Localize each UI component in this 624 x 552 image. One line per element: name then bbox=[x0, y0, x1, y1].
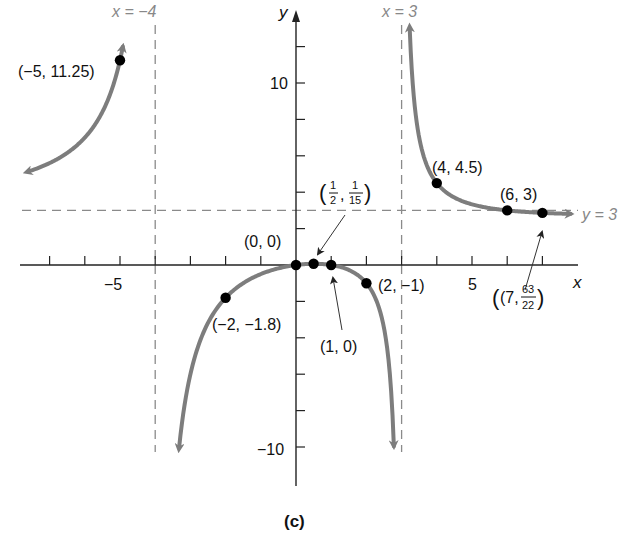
point-label-two: (2, −1) bbox=[378, 277, 425, 294]
curves bbox=[28, 29, 570, 448]
point-label-half: ( 1 2 , 1 15 ) bbox=[319, 179, 371, 206]
svg-text:,: , bbox=[340, 186, 344, 203]
data-point bbox=[432, 178, 442, 188]
point-label-four: (4, 4.5) bbox=[432, 159, 483, 176]
point-label-seven: ( (7, (7, 63 22 ) bbox=[492, 283, 544, 311]
leader-one bbox=[333, 278, 342, 330]
x-tick-label-neg5: −5 bbox=[104, 276, 122, 293]
point-label-neg2: (−2, −1.8) bbox=[212, 316, 281, 333]
point-label-origin: (0, 0) bbox=[244, 233, 281, 250]
svg-text:(: ( bbox=[319, 180, 327, 205]
asymptote-label-x3: x = 3 bbox=[381, 3, 417, 20]
data-point bbox=[220, 293, 230, 303]
data-point bbox=[115, 55, 125, 65]
svg-text:(7,: (7, bbox=[500, 289, 519, 306]
data-point bbox=[308, 259, 318, 269]
svg-text:): ) bbox=[364, 180, 371, 205]
svg-text:1: 1 bbox=[330, 179, 336, 191]
y-tick-label-neg10: −10 bbox=[257, 441, 284, 458]
point-label-one: (1, 0) bbox=[320, 338, 357, 355]
data-point bbox=[326, 260, 336, 270]
figure-caption: (c) bbox=[284, 512, 305, 531]
svg-text:): ) bbox=[537, 285, 544, 310]
asymptote-label-x-neg4: x = −4 bbox=[111, 3, 157, 20]
point-label-neg5: (−5, 11.25) bbox=[18, 63, 95, 80]
data-point bbox=[502, 205, 512, 215]
svg-text:2: 2 bbox=[330, 194, 336, 206]
data-point bbox=[537, 208, 547, 218]
y-axis-arrow-icon bbox=[292, 10, 300, 22]
rational-function-graph: x = −4 x = 3 y = 3 y x −5 5 10 −10 (−5, … bbox=[0, 0, 624, 552]
svg-text:1: 1 bbox=[352, 179, 358, 191]
y-axis-label: y bbox=[278, 3, 289, 22]
axes bbox=[20, 10, 578, 486]
svg-text:22: 22 bbox=[522, 299, 534, 311]
svg-text:63: 63 bbox=[522, 283, 534, 295]
svg-text:15: 15 bbox=[349, 194, 361, 206]
y-tick-label-10: 10 bbox=[270, 75, 288, 92]
middle-branch bbox=[179, 264, 394, 447]
leader-seven bbox=[525, 232, 542, 290]
x-axis-label: x bbox=[572, 273, 582, 292]
data-point bbox=[361, 278, 371, 288]
asymptote-label-y3: y = 3 bbox=[581, 206, 617, 223]
asymptotes bbox=[22, 25, 578, 452]
leader-half bbox=[318, 215, 345, 254]
data-point bbox=[291, 260, 301, 270]
point-label-six: (6, 3) bbox=[500, 186, 537, 203]
x-tick-label-5: 5 bbox=[468, 276, 477, 293]
svg-text:(: ( bbox=[492, 285, 500, 310]
